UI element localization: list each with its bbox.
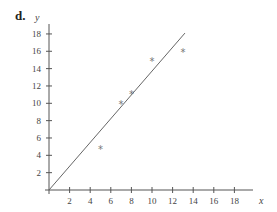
x-tick-label: 14 [189,196,199,206]
y-tick-label: 8 [37,116,42,126]
y-tick-label: 12 [32,81,41,91]
y-tick-label: 14 [32,64,42,74]
x-tick-label: 16 [209,196,219,206]
y-tick-label: 4 [37,150,42,160]
scatter-chart: 2468101214161824681012141618xy***** [0,0,277,212]
y-axis-label: y [34,12,40,23]
data-point-marker: * [129,89,134,100]
x-tick-label: 10 [148,196,158,206]
x-axis-label: x [258,195,264,206]
x-tick-label: 18 [230,196,240,206]
x-tick-label: 4 [88,196,93,206]
y-tick-label: 10 [32,98,42,108]
x-tick-label: 8 [129,196,134,206]
x-tick-label: 12 [168,196,177,206]
y-tick-label: 16 [32,46,42,56]
data-point-marker: * [150,56,155,67]
y-tick-label: 18 [32,29,42,39]
x-tick-label: 6 [109,196,114,206]
y-tick-label: 6 [37,133,42,143]
fitted-line [49,33,185,190]
data-point-marker: * [98,144,103,155]
data-point-marker: * [180,47,185,58]
data-point-marker: * [119,99,124,110]
y-tick-label: 2 [37,168,42,178]
x-tick-label: 2 [67,196,72,206]
